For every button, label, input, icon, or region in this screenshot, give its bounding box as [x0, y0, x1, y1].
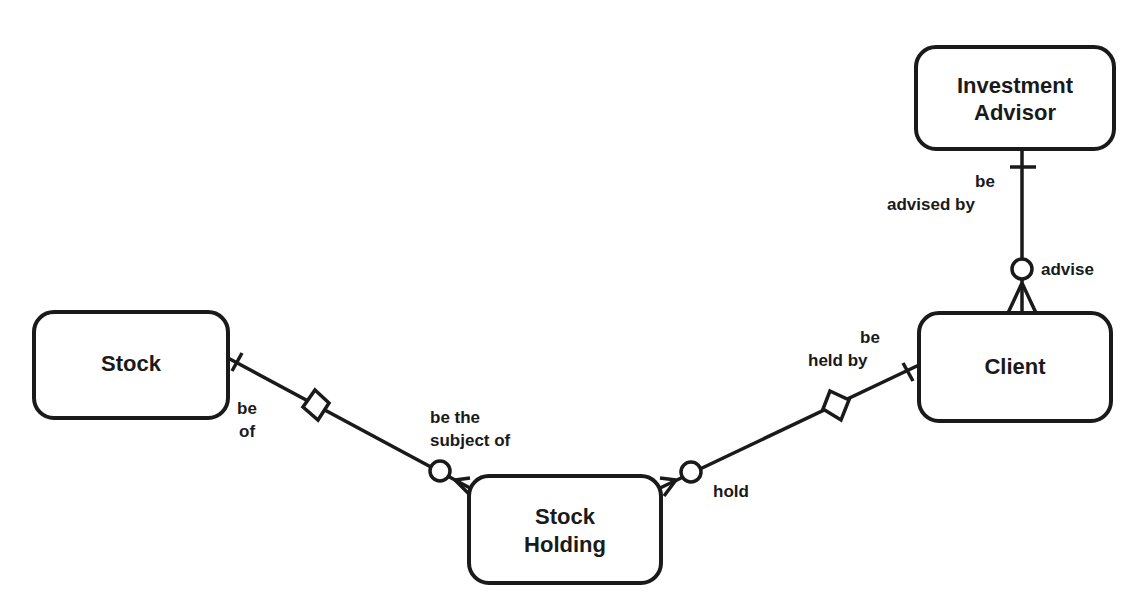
label-be-advised-by-2: advised by — [887, 195, 975, 214]
label-be-held-by-1: be — [860, 328, 880, 347]
identifying-diamond-icon — [303, 390, 329, 420]
entity-stock-holding[interactable]: Stock Holding — [469, 476, 661, 583]
label-be-advised-by-1: be — [975, 172, 995, 191]
label-be-of-1: be — [237, 399, 257, 418]
entity-client[interactable]: Client — [919, 313, 1111, 421]
optional-circle-icon — [681, 462, 701, 482]
label-hold: hold — [713, 482, 749, 501]
entity-box — [916, 47, 1114, 149]
entity-name-line-1: Investment — [957, 73, 1074, 98]
relationship-stock-stockholding: be of be the subject of — [228, 353, 511, 495]
entity-stock[interactable]: Stock — [34, 312, 228, 418]
entity-investment-advisor[interactable]: Investment Advisor — [916, 47, 1114, 149]
entity-name-line-1: Stock — [535, 504, 596, 529]
identifying-diamond-icon — [823, 391, 849, 420]
label-be-the-subject-of-2: subject of — [430, 431, 511, 450]
label-be-of-2: of — [239, 422, 255, 441]
relationship-advisor-client: be advised by advise — [887, 149, 1094, 313]
entity-name-line-2: Advisor — [974, 100, 1056, 125]
entity-name-line-1: Stock — [101, 351, 162, 376]
relationship-client-stockholding: be held by hold — [660, 328, 919, 501]
er-diagram: be advised by advise be of be the subjec… — [0, 0, 1146, 613]
entity-box — [469, 476, 661, 583]
label-advise: advise — [1041, 260, 1094, 279]
entity-name-line-2: Holding — [524, 532, 606, 557]
label-be-the-subject-of-1: be the — [430, 408, 480, 427]
optional-circle-icon — [430, 461, 450, 481]
label-be-held-by-2: held by — [808, 351, 868, 370]
entity-name-line-1: Client — [984, 354, 1046, 379]
optional-circle-icon — [1012, 259, 1032, 279]
